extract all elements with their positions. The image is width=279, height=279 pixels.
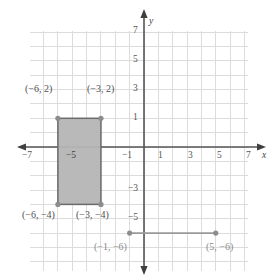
plotted-point bbox=[213, 231, 218, 236]
plotted-point bbox=[55, 116, 60, 121]
plotted-point bbox=[55, 202, 60, 207]
plotted-point bbox=[98, 116, 103, 121]
shaded-rectangle bbox=[58, 118, 101, 204]
plotted-point bbox=[98, 202, 103, 207]
coordinate-plane-figure: −7 −5 −1 1 3 5 7 x 7 5 3 1 −3 −5 y (−6, … bbox=[0, 0, 279, 279]
shapes-layer bbox=[0, 0, 279, 279]
plotted-point bbox=[127, 231, 132, 236]
